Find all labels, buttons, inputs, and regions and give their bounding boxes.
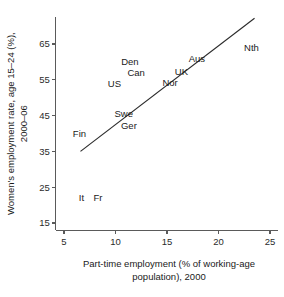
data-point-label: Nth [244, 42, 259, 53]
y-tick-label: 25 [39, 182, 50, 193]
x-tick-label: 25 [265, 236, 276, 247]
y-axis-title-line2: 2000–06 [18, 105, 29, 142]
data-point-label: Den [121, 56, 138, 67]
x-tick-label: 20 [213, 236, 224, 247]
plot-canvas: 152535455565510152025FinItFrUSSweGerDenC… [0, 0, 284, 297]
data-point-label: Swe [114, 108, 132, 119]
x-axis-title-line1: Part-time employment (% of working-age [83, 258, 255, 269]
y-tick-label: 45 [39, 110, 50, 121]
x-axis-title-line2: population), 2000 [132, 271, 205, 282]
data-point-label: Fin [73, 128, 86, 139]
data-point-label: It [79, 192, 85, 203]
x-tick-label: 10 [110, 236, 121, 247]
x-tick-label: 5 [61, 236, 66, 247]
y-tick-label: 65 [39, 38, 50, 49]
data-point-label: UK [175, 66, 189, 77]
scatter-plot-figure: 152535455565510152025FinItFrUSSweGerDenC… [0, 0, 284, 297]
data-point-label: Ger [121, 120, 137, 131]
x-tick-label: 15 [162, 236, 173, 247]
y-tick-label: 55 [39, 74, 50, 85]
y-axis-title-line1: Women's employment rate, age 15–24 (%), [5, 32, 16, 215]
data-point-label: Aus [189, 53, 206, 64]
y-tick-label: 35 [39, 146, 50, 157]
y-tick-label: 15 [39, 217, 50, 228]
data-point-label: US [108, 78, 121, 89]
data-point-label: Nor [162, 77, 177, 88]
data-point-label: Can [127, 67, 144, 78]
data-point-label: Fr [94, 192, 103, 203]
